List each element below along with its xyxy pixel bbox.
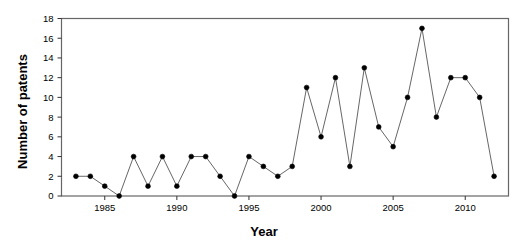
y-tick-label: 6	[48, 131, 53, 142]
data-point	[160, 154, 165, 159]
y-tick-label: 2	[48, 171, 53, 182]
data-point	[189, 154, 194, 159]
y-tick-label: 12	[43, 72, 54, 83]
data-point	[319, 134, 324, 139]
data-point	[203, 154, 208, 159]
data-point	[304, 85, 309, 90]
x-axis-ticks: 198519901995200020052010	[94, 196, 476, 213]
data-point	[376, 125, 381, 130]
data-point	[420, 26, 425, 31]
data-point	[261, 164, 266, 169]
y-tick-label: 8	[48, 112, 53, 123]
data-point	[74, 174, 79, 179]
data-point	[434, 115, 439, 120]
x-tick-label: 1990	[166, 202, 187, 213]
data-point	[146, 184, 151, 189]
data-point	[88, 174, 93, 179]
data-point	[391, 144, 396, 149]
data-series-line	[76, 28, 494, 196]
x-tick-label: 2000	[310, 202, 331, 213]
y-tick-label: 10	[43, 92, 54, 103]
data-point	[131, 154, 136, 159]
data-point	[232, 194, 237, 199]
data-point	[102, 184, 107, 189]
x-tick-label: 1995	[238, 202, 259, 213]
chart-plot-area: 024681012141618 198519901995200020052010	[0, 0, 528, 248]
y-tick-label: 16	[43, 33, 54, 44]
y-tick-label: 4	[48, 151, 53, 162]
x-tick-label: 2010	[455, 202, 476, 213]
series-polyline	[76, 28, 494, 196]
data-point	[218, 174, 223, 179]
data-point	[247, 154, 252, 159]
data-point	[362, 65, 367, 70]
data-point	[117, 194, 122, 199]
y-axis-ticks: 024681012141618	[43, 13, 62, 202]
data-point	[448, 75, 453, 80]
y-tick-label: 18	[43, 13, 54, 24]
y-tick-label: 0	[48, 190, 53, 201]
data-series-markers	[74, 26, 497, 198]
y-tick-label: 14	[43, 52, 54, 63]
x-tick-label: 2005	[383, 202, 404, 213]
y-axis-title: Number of patents	[15, 32, 30, 192]
data-point	[477, 95, 482, 100]
data-point	[290, 164, 295, 169]
data-point	[347, 164, 352, 169]
patents-line-chart: 024681012141618 198519901995200020052010…	[0, 0, 528, 248]
data-point	[333, 75, 338, 80]
data-point	[405, 95, 410, 100]
data-point	[492, 174, 497, 179]
data-point	[174, 184, 179, 189]
data-point	[275, 174, 280, 179]
x-tick-label: 1985	[94, 202, 115, 213]
data-point	[463, 75, 468, 80]
x-axis-title: Year	[0, 224, 528, 239]
